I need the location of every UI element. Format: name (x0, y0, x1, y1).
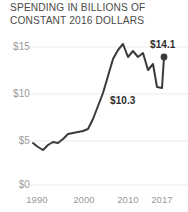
y-tick-label-5: $5 (4, 135, 30, 146)
line-chart-plot: $15 $10 $5 $0 1990 2000 2010 2017 $10.3 … (0, 0, 188, 212)
x-tick-label-2017: 2017 (145, 194, 179, 205)
endpoint-value-annotation: $14.1 (150, 39, 176, 50)
y-tick-label-15: $15 (4, 41, 30, 52)
x-tick-label-1990: 1990 (20, 194, 54, 205)
x-tick-label-2010: 2010 (111, 194, 145, 205)
chart-figure: SPENDING IN BILLIONS OF CONSTANT 2016 DO… (0, 0, 188, 212)
spending-line (33, 44, 164, 150)
trough-value-annotation: $10.3 (110, 95, 136, 106)
y-tick-label-0: $0 (4, 179, 30, 190)
y-tick-label-10: $10 (4, 88, 30, 99)
x-tick-label-2000: 2000 (67, 194, 101, 205)
endpoint-marker (161, 54, 168, 61)
